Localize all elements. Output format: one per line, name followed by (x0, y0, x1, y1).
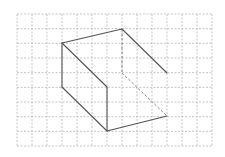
visible-edge (62, 87, 107, 131)
grid-figure (0, 0, 225, 157)
visible-edge (62, 29, 122, 43)
visible-edge (62, 43, 107, 87)
visible-edges (62, 29, 167, 131)
visible-edge (107, 116, 167, 131)
solid-diagram (0, 0, 225, 157)
dashed-grid (17, 14, 212, 146)
hidden-edge (122, 73, 167, 116)
visible-edge (122, 29, 167, 73)
